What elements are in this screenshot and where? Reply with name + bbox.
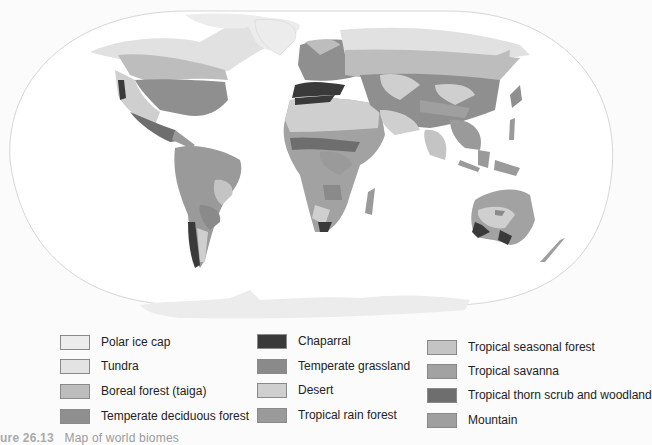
figure-number: ure 26.13 bbox=[0, 431, 54, 445]
legend-label: Tundra bbox=[101, 359, 139, 373]
legend-label: Boreal forest (taiga) bbox=[101, 384, 206, 398]
tundra-swatch bbox=[60, 359, 90, 374]
temperate-grassland-swatch bbox=[257, 359, 287, 374]
figure-title: Map of world biomes bbox=[64, 431, 179, 445]
tropical-thorn-scrub-swatch bbox=[427, 388, 457, 403]
legend-label: Temperate deciduous forest bbox=[101, 409, 249, 423]
tropical-rain-forest-swatch bbox=[257, 408, 287, 423]
legend-label: Desert bbox=[298, 383, 333, 397]
polar-ice-cap-swatch bbox=[60, 335, 90, 350]
boreal-forest-swatch bbox=[60, 384, 90, 399]
legend-label: Tropical rain forest bbox=[298, 408, 397, 422]
temperate-deciduous-forest-swatch bbox=[60, 409, 90, 424]
legend-label: Tropical savanna bbox=[468, 364, 559, 378]
legend-label: Polar ice cap bbox=[101, 335, 170, 349]
legend-label: Mountain bbox=[468, 413, 517, 427]
tropical-seasonal-forest-swatch bbox=[427, 340, 457, 355]
legend-label: Temperate grassland bbox=[298, 359, 410, 373]
chaparral-swatch bbox=[257, 334, 287, 349]
biome-legend: Polar ice cap Tundra Boreal forest (taig… bbox=[0, 334, 641, 429]
mountain-swatch bbox=[427, 413, 457, 428]
figure-caption: ure 26.13 Map of world biomes bbox=[0, 431, 179, 445]
legend-label: Chaparral bbox=[298, 334, 351, 348]
legend-label: Tropical seasonal forest bbox=[468, 340, 595, 354]
world-biome-map bbox=[0, 0, 641, 330]
tropical-savanna-swatch bbox=[427, 364, 457, 379]
desert-swatch bbox=[257, 383, 287, 398]
australia bbox=[471, 190, 535, 245]
legend-label: Tropical thorn scrub and woodland bbox=[468, 388, 652, 402]
